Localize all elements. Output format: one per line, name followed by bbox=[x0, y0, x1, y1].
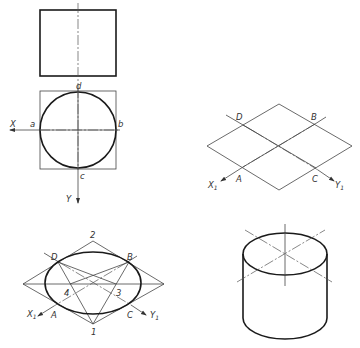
ellipse-construction-step: 2 1 4 3 D B A C X1 Y1 bbox=[23, 230, 164, 337]
label-point-4: 4 bbox=[64, 288, 69, 298]
y1-axis-centerline bbox=[62, 264, 131, 305]
label-D: D bbox=[236, 112, 243, 122]
label-c: c bbox=[80, 171, 85, 181]
label-point-2: 2 bbox=[90, 230, 95, 240]
label-point-1: 1 bbox=[91, 327, 96, 337]
y1-axis-arrow bbox=[318, 170, 334, 181]
label-y1-axis: Y1 bbox=[335, 180, 344, 191]
line-ac-edge bbox=[243, 124, 315, 167]
label-b: b bbox=[118, 119, 123, 129]
label-y-axis: Y bbox=[66, 194, 72, 204]
label-B: B bbox=[127, 252, 133, 262]
top-view: d a b c X Y bbox=[9, 81, 123, 204]
line-db-edge bbox=[243, 125, 316, 168]
isometric-cylinder bbox=[237, 224, 332, 339]
y1-axis-arrow bbox=[131, 305, 146, 315]
label-x-axis: X bbox=[9, 119, 16, 129]
label-A: A bbox=[50, 310, 57, 320]
label-point-3: 3 bbox=[116, 288, 121, 298]
label-D: D bbox=[51, 252, 58, 262]
construction-line-1-B bbox=[93, 262, 129, 324]
label-a: a bbox=[30, 119, 35, 129]
label-x1-axis: X1 bbox=[207, 180, 218, 191]
drawing-canvas: d a b c X Y D B A C X1 Y1 bbox=[0, 0, 360, 348]
label-C: C bbox=[312, 174, 318, 184]
x1-axis-centerline bbox=[54, 263, 126, 306]
cylinder-bottom-arc bbox=[243, 318, 327, 339]
label-x1-axis: X1 bbox=[26, 309, 37, 320]
front-view bbox=[40, 3, 116, 84]
label-C: C bbox=[127, 310, 133, 320]
isometric-rhombus-step: D B A C X1 Y1 bbox=[207, 104, 352, 191]
label-y1-axis: Y1 bbox=[150, 310, 159, 321]
label-B: B bbox=[311, 112, 317, 122]
label-A: A bbox=[235, 174, 242, 184]
construction-line-B-4 bbox=[70, 262, 129, 284]
label-d: d bbox=[76, 81, 82, 91]
construction-line-D-3 bbox=[58, 262, 116, 284]
